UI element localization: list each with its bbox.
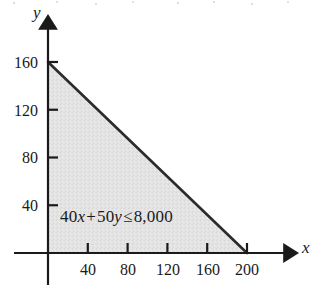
y-tick-label-40: 40 xyxy=(0,198,38,214)
inequality-graph-figure: y x 160 120 80 40 40 80 120 160 200 40x+… xyxy=(0,0,319,292)
constant-term: 8,000 xyxy=(134,207,173,226)
plot-canvas xyxy=(0,0,319,292)
y-tick-label-120: 120 xyxy=(0,103,38,119)
coefficient-y: 50 xyxy=(97,207,114,226)
y-tick-label-160: 160 xyxy=(0,55,38,71)
constraint-inequality-label: 40x+50y≤8,000 xyxy=(60,207,173,227)
plus-operator: + xyxy=(85,207,97,226)
less-than-or-equal-operator: ≤ xyxy=(122,207,134,226)
coefficient-x: 40 xyxy=(60,207,77,226)
y-axis-label: y xyxy=(33,4,41,21)
x-tick-label-200: 200 xyxy=(224,262,270,278)
y-tick-label-80: 80 xyxy=(0,150,38,166)
variable-x: x xyxy=(77,207,85,226)
x-axis-label: x xyxy=(302,239,310,256)
variable-y: y xyxy=(114,207,122,226)
